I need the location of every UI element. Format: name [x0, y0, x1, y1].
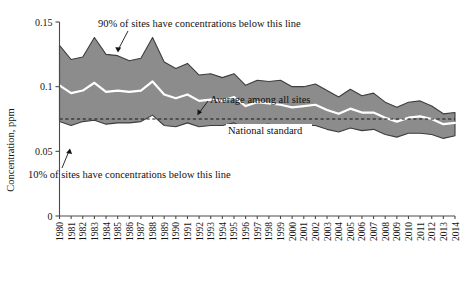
x-tick-label: 1982 [78, 222, 88, 241]
x-tick-label: 1994 [218, 222, 228, 241]
x-tick-label: 1996 [241, 222, 251, 241]
x-tick-label: 1986 [125, 222, 135, 241]
percentile-band-area [60, 38, 456, 139]
x-tick-label: 1981 [67, 222, 77, 241]
x-tick-label: 1990 [171, 222, 181, 241]
x-axis: 1980198119821983198419851986198719881989… [55, 216, 461, 241]
ozone-concentration-chart: 00.050.10.15 198019811982198319841985198… [0, 0, 471, 290]
annotation-p90-text: 90% of sites have concentrations below t… [98, 18, 301, 29]
x-tick-label: 2006 [357, 222, 367, 241]
x-tick-label: 2010 [404, 222, 414, 241]
x-tick-label: 1992 [195, 222, 205, 241]
plot-band-group [60, 38, 456, 139]
y-tick-label: 0.05 [35, 146, 53, 157]
x-tick-label: 2001 [299, 222, 309, 241]
x-tick-label: 1983 [90, 222, 100, 241]
y-tick-group: 00.050.10.15 [35, 17, 60, 222]
x-tick-label: 2000 [288, 222, 298, 241]
x-tick-label: 1993 [206, 222, 216, 241]
x-tick-label: 2005 [346, 222, 356, 241]
x-tick-label: 2002 [311, 222, 321, 241]
x-tick-label: 2011 [416, 222, 426, 241]
annotation-average-text: Average among all sites [210, 94, 310, 105]
x-tick-label: 1980 [55, 222, 65, 241]
x-tick-label: 1987 [136, 222, 146, 241]
y-tick-label: 0.1 [40, 81, 53, 92]
x-tick-label: 2013 [439, 222, 449, 241]
x-tick-label: 1984 [102, 222, 112, 241]
x-tick-label: 2004 [334, 222, 344, 241]
y-tick-label: 0.15 [35, 17, 53, 28]
annotation-p10-leader [62, 151, 69, 168]
x-tick-label: 1989 [160, 222, 170, 241]
x-tick-label: 2008 [381, 222, 391, 241]
x-tick-group: 1980198119821983198419851986198719881989… [55, 216, 461, 241]
annotation-standard: National standard [226, 124, 312, 137]
annotation-p10-arrowhead [66, 149, 72, 155]
y-axis-title: Concentration, ppm [5, 108, 16, 191]
annotation-standard-text: National standard [228, 125, 303, 136]
x-tick-label: 1997 [253, 222, 263, 241]
x-tick-label: 2009 [392, 222, 402, 241]
x-tick-label: 1985 [113, 222, 123, 241]
x-tick-label: 2012 [427, 222, 437, 241]
x-tick-label: 2003 [323, 222, 333, 241]
annotation-p10: 10% of sites have concentrations below t… [28, 149, 231, 181]
x-tick-label: 1999 [276, 222, 286, 241]
annotation-p90: 90% of sites have concentrations below t… [98, 18, 301, 53]
annotation-p10-text: 10% of sites have concentrations below t… [28, 169, 231, 180]
x-tick-label: 1988 [148, 222, 158, 241]
annotation-p90-arrowhead [115, 47, 121, 52]
x-tick-label: 1998 [264, 222, 274, 241]
x-tick-label: 2007 [369, 222, 379, 241]
x-tick-label: 2014 [451, 222, 461, 241]
y-tick-label: 0 [48, 211, 53, 222]
chart-canvas: 00.050.10.15 198019811982198319841985198… [0, 0, 471, 290]
annotation-p90-leader [118, 31, 128, 50]
x-tick-label: 1995 [229, 222, 239, 241]
x-tick-label: 1991 [183, 222, 193, 241]
y-axis: 00.050.10.15 [35, 17, 60, 222]
